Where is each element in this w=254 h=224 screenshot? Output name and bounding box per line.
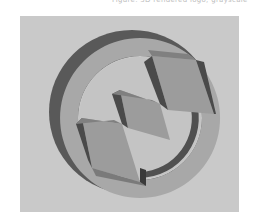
logo-render-figure — [0, 0, 254, 224]
